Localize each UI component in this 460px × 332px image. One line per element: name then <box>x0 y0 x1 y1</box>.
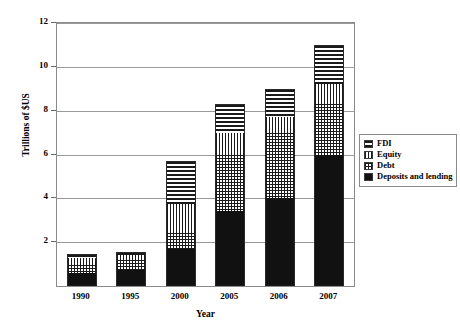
legend-swatch-vertical-lines-icon <box>364 151 373 159</box>
x-tick-label-1990: 1990 <box>58 291 104 301</box>
bar-1995 <box>116 23 146 286</box>
bar-segment-1995-deposits-and-lending <box>116 270 146 286</box>
y-tick-mark-12 <box>51 22 56 23</box>
bar-segment-2007-fdi <box>314 45 344 84</box>
y-gridline-6 <box>57 155 354 156</box>
legend-swatch-horizontal-lines-icon <box>364 140 373 148</box>
bar-1990 <box>67 23 97 286</box>
chart-legend: FDIEquityDebtDeposits and lending <box>359 134 457 187</box>
bar-segment-1995-fdi <box>116 252 146 255</box>
legend-item-equity: Equity <box>364 149 453 160</box>
bar-segment-2005-fdi <box>215 104 245 132</box>
bar-2000 <box>166 23 196 286</box>
bar-segment-2000-fdi <box>166 161 196 204</box>
y-axis-title: Trillions of $US <box>21 55 31 195</box>
bar-segment-1990-equity <box>67 258 97 266</box>
bar-segment-2007-equity <box>314 84 344 104</box>
y-tick-mark-8 <box>51 110 56 111</box>
bar-2006 <box>265 23 295 286</box>
bar-segment-1995-equity <box>116 255 146 259</box>
x-tick-label-2007: 2007 <box>305 291 351 301</box>
y-tick-mark-6 <box>51 154 56 155</box>
x-axis-title: Year <box>56 309 355 319</box>
y-gridline-8 <box>57 111 354 112</box>
y-gridline-4 <box>57 198 354 199</box>
bar-segment-2005-deposits-and-lending <box>215 211 245 286</box>
bar-segment-2007-deposits-and-lending <box>314 155 344 287</box>
y-tick-mark-10 <box>51 66 56 67</box>
legend-item-debt: Debt <box>364 160 453 171</box>
legend-item-deposits-and-lending: Deposits and lending <box>364 171 453 182</box>
bar-segment-1990-fdi <box>67 254 97 257</box>
legend-label: Debt <box>377 161 394 170</box>
y-tick-label-8: 8 <box>8 105 48 114</box>
bar-segment-2000-equity <box>166 204 196 234</box>
bar-segment-2000-debt <box>166 233 196 248</box>
y-gridline-12 <box>57 23 354 24</box>
bar-segment-2006-fdi <box>265 89 295 117</box>
bar-segment-1995-debt <box>116 260 146 270</box>
legend-swatch-solid-black-icon <box>364 173 373 181</box>
y-gridline-2 <box>57 242 354 243</box>
x-tick-label-2000: 2000 <box>157 291 203 301</box>
legend-item-fdi: FDI <box>364 138 453 149</box>
legend-swatch-crosshatch-icon <box>364 162 373 170</box>
bar-segment-2007-debt <box>314 104 344 154</box>
bar-segment-2005-debt <box>215 155 245 212</box>
stacked-bar-chart: Trillions of $US Year FDIEquityDebtDepos… <box>0 0 460 332</box>
y-tick-label-10: 10 <box>8 61 48 70</box>
y-tick-label-12: 12 <box>8 17 48 26</box>
y-tick-mark-2 <box>51 241 56 242</box>
y-tick-label-6: 6 <box>8 149 48 158</box>
bar-2005 <box>215 23 245 286</box>
legend-label: Equity <box>377 150 402 159</box>
y-tick-label-2: 2 <box>8 236 48 245</box>
y-gridline-10 <box>57 67 354 68</box>
bar-segment-2005-equity <box>215 133 245 155</box>
y-tick-label-4: 4 <box>8 192 48 201</box>
x-tick-label-2005: 2005 <box>206 291 252 301</box>
bar-2007 <box>314 23 344 286</box>
bar-segment-2000-deposits-and-lending <box>166 249 196 286</box>
bar-segment-1990-deposits-and-lending <box>67 273 97 286</box>
y-tick-mark-4 <box>51 197 56 198</box>
legend-label: Deposits and lending <box>377 172 453 181</box>
plot-area <box>56 22 355 287</box>
legend-label: FDI <box>377 139 392 148</box>
x-tick-label-1995: 1995 <box>107 291 153 301</box>
bar-segment-2006-equity <box>265 117 295 132</box>
bar-segment-1990-debt <box>67 265 97 273</box>
bar-segment-2006-debt <box>265 133 295 199</box>
bar-segment-2006-deposits-and-lending <box>265 198 295 286</box>
x-tick-label-2006: 2006 <box>256 291 302 301</box>
